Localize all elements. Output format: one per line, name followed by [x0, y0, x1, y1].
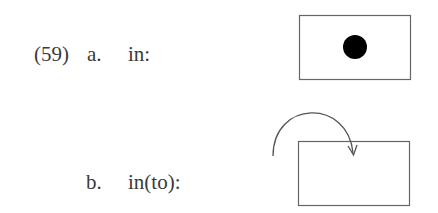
dot-icon: [343, 35, 367, 59]
example-diagram: (59) a. in: b. in(to):: [0, 0, 438, 213]
figures: [0, 0, 438, 213]
figure-into-container: [273, 113, 410, 206]
container-box: [299, 142, 410, 206]
curved-arrow-icon: [273, 113, 353, 156]
figure-in-container: [300, 16, 411, 80]
